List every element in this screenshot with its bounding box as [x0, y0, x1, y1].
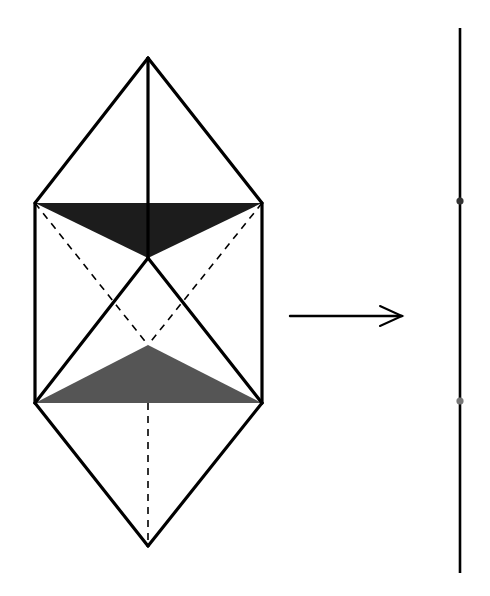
- lower-shaded-triangle: [35, 345, 262, 403]
- upper-point: [456, 197, 463, 204]
- lower-point: [456, 397, 463, 404]
- polyhedron-mapping-diagram: [0, 0, 490, 596]
- mapping-arrow: [290, 306, 402, 326]
